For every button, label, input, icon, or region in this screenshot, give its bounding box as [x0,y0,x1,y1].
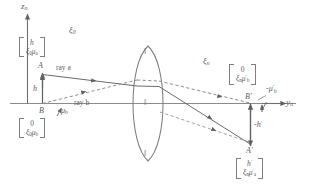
lens-tick-bottom: ‖ [144,150,146,158]
object-point-a-label: A [38,62,43,70]
ray-a-inside-lens [137,86,159,87]
ray-b-direction-marker-1 [72,92,86,96]
ray-a-emergent [159,87,250,145]
bracket-right [40,37,45,57]
object-height-label: h [33,85,37,93]
figure-canvas: zn yn ξ0 ξn h ξ0μa A ray a h ray b B μb … [0,0,309,192]
lens-tick-middle: ‖ [144,99,146,107]
vector-top-element: h [30,38,34,47]
vector-top-element: 0 [30,119,34,128]
object-ray-a-vector: h ξ0μa [19,37,45,57]
image-point-b-label: B′ [245,93,252,101]
bracket-right [251,64,256,85]
object-ray-b-vector: 0 ξ0μb [19,118,45,138]
ray-a-direction-marker-2 [196,109,212,119]
vector-bottom-element: ξnμ′b [236,74,249,84]
bracket-right [40,118,45,138]
bracket-right [258,158,263,179]
image-space-index-label: ξn [203,57,210,67]
vector-top-element: h′ [247,159,252,168]
lens-tick-top: ‖ [144,48,146,56]
object-angle-mu-b-label: μb [61,107,68,116]
ray-b-inside-lens [137,80,159,81]
ray-a-incident [43,75,138,87]
vector-top-element: 0 [241,65,245,74]
vector-bottom-element: ξ0μb [26,128,38,137]
image-ray-b-vector: 0 ξnμ′b [229,64,256,85]
object-point-b-label: B [39,107,44,115]
image-height-label: -h′ [254,121,262,129]
z-axis-label: zn [21,2,28,11]
ray-a-label: ray a [56,64,71,72]
y-axis-label: yn [286,98,293,107]
angle-mu-b-prime-leader [258,96,266,101]
image-point-a-label: A′ [246,147,253,155]
vector-bottom-element: ξ0μa [26,47,38,56]
auxiliary-ray-emergent [160,112,249,142]
object-space-index-label: ξ0 [69,26,76,36]
ray-b-label: ray b [74,99,89,107]
vector-bottom-element: ξnμ′a [243,168,256,178]
image-angle-mu-b-prime-label: -μ′b [266,85,277,94]
ray-b-incident [43,80,138,104]
image-ray-a-vector: h′ ξnμ′a [236,158,263,179]
